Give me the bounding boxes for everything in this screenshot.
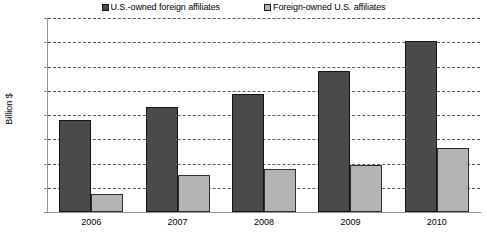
bar-series-0 (405, 41, 437, 212)
x-axis-tick-label: 2008 (221, 216, 307, 230)
legend-item-series-0: U.S.-owned foreign affiliates (102, 3, 221, 12)
bar-series-0 (146, 107, 178, 212)
bar-series-1 (264, 169, 296, 212)
x-axis-tick-label: 2010 (394, 216, 480, 230)
bar-series-0 (232, 94, 264, 212)
bar-series-1 (91, 194, 123, 212)
bar-group (307, 18, 393, 212)
legend-swatch-series-0 (102, 4, 109, 11)
x-axis-labels: 20062007200820092010 (48, 216, 480, 230)
chart-legend: U.S.-owned foreign affiliates Foreign-ow… (0, 1, 487, 14)
y-axis-title: Billion $ (4, 79, 14, 139)
legend-swatch-series-1 (264, 4, 271, 11)
legend-item-series-1: Foreign-owned U.S. affiliates (264, 3, 386, 12)
bar-series-0 (318, 71, 350, 212)
plot-area: 05001000150020002500300035004000 (48, 18, 480, 212)
bar-groups (48, 18, 480, 212)
bar-group (48, 18, 134, 212)
x-axis-tick-label: 2009 (307, 216, 393, 230)
bar-group (221, 18, 307, 212)
bar-series-1 (178, 175, 210, 212)
x-axis-line (47, 212, 481, 213)
x-axis-tick-label: 2006 (48, 216, 134, 230)
bar-series-1 (350, 165, 382, 212)
legend-label-series-1: Foreign-owned U.S. affiliates (273, 3, 386, 12)
x-axis-tick-label: 2007 (134, 216, 220, 230)
bar-group (394, 18, 480, 212)
bar-series-1 (437, 148, 469, 212)
y-axis-tick (44, 212, 48, 213)
bar-group (134, 18, 220, 212)
bar-series-0 (59, 120, 91, 212)
bar-chart: U.S.-owned foreign affiliates Foreign-ow… (0, 0, 487, 234)
legend-label-series-0: U.S.-owned foreign affiliates (111, 3, 221, 12)
